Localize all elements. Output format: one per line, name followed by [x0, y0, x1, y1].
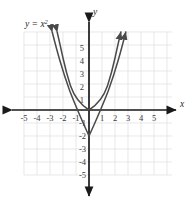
x-tick-label: -4 — [33, 113, 41, 123]
y-tick-label: 5 — [80, 43, 84, 53]
x-tick-label: 1 — [100, 113, 104, 123]
y-tick-labels: 5 4 3 2 1 -1 -2 -3 -4 -5 — [79, 43, 87, 180]
y-axis-label: y — [92, 7, 98, 17]
equation-annotation: y = x2 — [24, 18, 49, 29]
equation-exponent: 2 — [45, 18, 49, 25]
y-tick-label: -2 — [79, 131, 86, 141]
x-tick-label: 5 — [152, 113, 156, 123]
y-tick-label: -4 — [79, 157, 87, 167]
y-tick-label: 3 — [80, 69, 84, 79]
graph-figure: -5 -4 -3 -2 -1 1 2 3 4 5 5 4 3 2 1 -1 -2… — [0, 0, 196, 202]
y-tick-label: -5 — [79, 170, 86, 180]
x-tick-label: -3 — [46, 113, 53, 123]
parabola-plot: -5 -4 -3 -2 -1 1 2 3 4 5 5 4 3 2 1 -1 -2… — [0, 0, 196, 202]
y-tick-label: -3 — [79, 144, 86, 154]
x-tick-label: 2 — [113, 113, 117, 123]
x-axis-label: x — [179, 99, 185, 109]
equation-text: y = x — [24, 19, 45, 29]
x-tick-label: -2 — [59, 113, 66, 123]
x-tick-label: 3 — [126, 113, 130, 123]
axes — [12, 22, 176, 196]
x-tick-label: -5 — [20, 113, 27, 123]
x-tick-label: 4 — [139, 113, 144, 123]
y-tick-label: 2 — [80, 82, 84, 92]
y-tick-label: -1 — [79, 118, 86, 128]
y-tick-label: 1 — [80, 95, 84, 105]
y-tick-label: 4 — [80, 56, 85, 66]
